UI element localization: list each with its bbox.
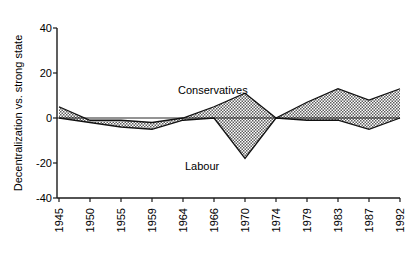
y-tick-label-minus-40: -40	[36, 192, 52, 204]
x-tick-label-1950: 1950	[84, 208, 96, 232]
chart-container: Decentralization vs. strong state 40 20 …	[0, 0, 420, 260]
y-axis-title: Decentralization vs. strong state	[12, 35, 24, 192]
y-tick-label-20: 20	[40, 67, 52, 79]
y-tick-label-0: 0	[46, 112, 52, 124]
y-tick-label-40: 40	[40, 22, 52, 34]
x-tick-label-1992: 1992	[394, 208, 406, 232]
labour-annotation-label: Labour	[185, 160, 220, 172]
x-tick-label-1979: 1979	[301, 208, 313, 232]
x-tick-label-1964: 1964	[177, 208, 189, 232]
x-tick-label-1983: 1983	[332, 208, 344, 232]
x-tick-label-1974: 1974	[270, 208, 282, 232]
y-tick-label-minus-20: -20	[36, 157, 52, 169]
x-tick-label-1966: 1966	[208, 208, 220, 232]
x-tick-label-1987: 1987	[363, 208, 375, 232]
decentralization-vs-strong-state-chart: Decentralization vs. strong state 40 20 …	[0, 0, 420, 260]
x-tick-label-1959: 1959	[146, 208, 158, 232]
x-tick-label-1970: 1970	[239, 208, 251, 232]
x-tick-label-1955: 1955	[115, 208, 127, 232]
x-tick-label-1945: 1945	[53, 208, 65, 232]
conservatives-annotation-label: Conservatives	[178, 84, 248, 96]
